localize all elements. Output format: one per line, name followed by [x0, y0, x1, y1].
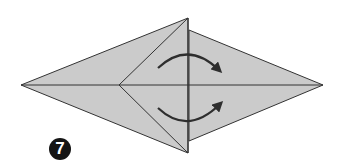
step-number-badge: 7: [49, 138, 71, 160]
